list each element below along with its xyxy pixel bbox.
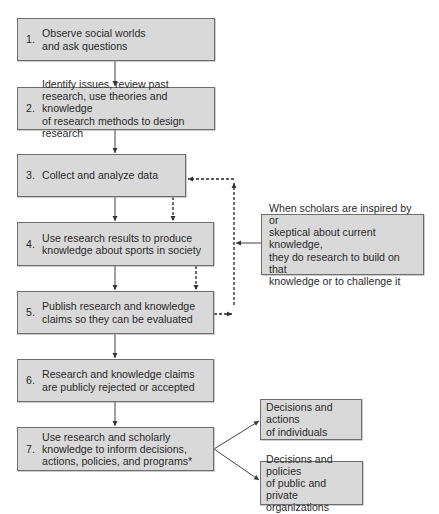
side-note-text: When scholars are inspired by or skeptic… xyxy=(269,202,416,287)
arrow-7-to-organizations xyxy=(214,449,259,480)
step-text: Use research results to produce knowledg… xyxy=(42,232,207,256)
step-text: Identify issues, review past research, u… xyxy=(42,78,208,139)
step-number: 1. xyxy=(26,33,42,45)
step-number: 6. xyxy=(26,374,42,386)
step-1-box: 1. Observe social worlds and ask questio… xyxy=(17,18,215,61)
step-2-box: 2. Identify issues, review past research… xyxy=(17,87,215,130)
step-text: Use research and scholarly knowledge to … xyxy=(42,431,207,468)
outcome-individuals-box: Decisions and actions of individuals xyxy=(260,399,362,440)
arrow-7-to-individuals xyxy=(214,421,259,449)
step-4-box: 4. Use research results to produce knowl… xyxy=(17,222,214,266)
step-text: Research and knowledge claims are public… xyxy=(42,368,207,392)
step-text: Collect and analyze data xyxy=(42,169,179,181)
step-number: 5. xyxy=(26,306,42,318)
step-number: 4. xyxy=(26,238,42,250)
side-note-box: When scholars are inspired by or skeptic… xyxy=(261,214,424,275)
step-3-box: 3. Collect and analyze data xyxy=(17,154,186,197)
step-5-box: 5. Publish research and knowledge claims… xyxy=(17,291,214,334)
step-text: Observe social worlds and ask questions xyxy=(42,27,208,51)
step-6-box: 6. Research and knowledge claims are pub… xyxy=(17,359,214,402)
step-text: Publish research and knowledge claims so… xyxy=(42,300,207,324)
step-number: 2. xyxy=(26,102,42,114)
outcome-text: Decisions and policies of public and pri… xyxy=(266,453,357,514)
step-7-box: 7. Use research and scholarly knowledge … xyxy=(17,427,214,471)
step-number: 7. xyxy=(26,443,42,455)
step-number: 3. xyxy=(26,169,42,181)
outcome-text: Decisions and actions of individuals xyxy=(266,401,356,438)
outcome-organizations-box: Decisions and policies of public and pri… xyxy=(260,461,363,505)
